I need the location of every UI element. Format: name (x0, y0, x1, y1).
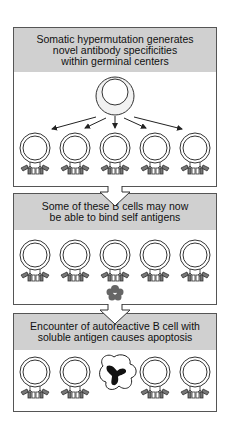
down-arrow-2 (100, 304, 130, 324)
progenitor-b-cell (96, 77, 134, 115)
self-antigen (107, 285, 124, 301)
apoptotic-b-cell (100, 355, 137, 390)
diagram-illustrations (0, 0, 230, 426)
down-arrow-1 (100, 186, 130, 206)
panel-2-b-cells (20, 240, 210, 281)
divergence-arrows (52, 116, 182, 129)
panel-1-b-cells (20, 133, 210, 174)
